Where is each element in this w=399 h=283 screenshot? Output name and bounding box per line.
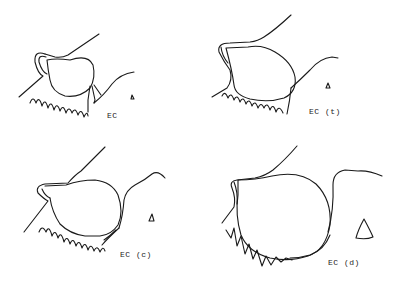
panel-d-label: EC (d) bbox=[328, 258, 360, 267]
panel-c-label: EC (c) bbox=[120, 250, 152, 259]
panel-c-drawing bbox=[24, 147, 165, 252]
panel-d-triangle-icon bbox=[356, 219, 373, 239]
panel-b-triangle-icon bbox=[326, 83, 330, 88]
figure-canvas: EC EC (t) EC (c) EC (d) bbox=[0, 0, 399, 283]
panel-b-label: EC (t) bbox=[309, 107, 341, 116]
panel-d-drawing bbox=[222, 146, 382, 266]
panel-c-triangle-icon bbox=[149, 214, 154, 221]
panel-a-label: EC bbox=[107, 111, 118, 120]
panel-a-triangle-icon bbox=[131, 95, 134, 99]
panel-a-drawing bbox=[19, 34, 134, 117]
diagram-drawing bbox=[0, 0, 399, 283]
panel-b-drawing bbox=[212, 15, 338, 114]
